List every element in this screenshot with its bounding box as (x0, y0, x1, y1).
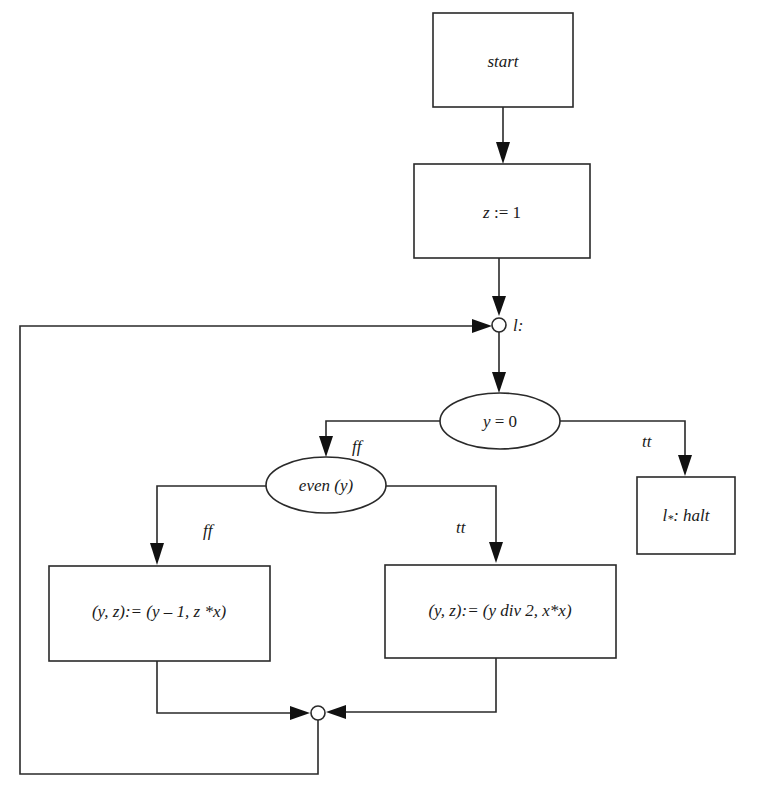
edge-merge-to-loop (20, 319, 492, 774)
node-init-label: z := 1 (482, 203, 521, 222)
node-even-step-label: (y, z):= (y div 2, x*x) (428, 601, 571, 620)
node-start: start (433, 13, 573, 107)
edge-even-false: ff (150, 486, 266, 565)
edge-zero-false: ff (319, 421, 440, 457)
junction-circle-icon (492, 318, 506, 332)
arrow-head-icon (319, 436, 333, 457)
node-init: z := 1 (414, 164, 590, 258)
loop-label: l: (513, 316, 523, 335)
node-start-label: start (487, 52, 519, 71)
arrow-head-icon (472, 319, 492, 333)
flowchart-canvas: start z := 1 l: y = 0 ff (0, 0, 762, 797)
node-odd-step-label: (y, z):= (y – 1, z *x) (92, 602, 227, 621)
edge-label-ff: ff (352, 437, 364, 456)
arrow-head-icon (678, 455, 692, 476)
edge-odd-to-merge (157, 661, 310, 720)
edge-label-tt: tt (642, 432, 653, 451)
node-test-zero: y = 0 (440, 393, 560, 449)
node-test-even: even (y) (266, 457, 386, 513)
node-odd-step: (y, z):= (y – 1, z *x) (49, 566, 270, 661)
arrow-head-icon (492, 372, 506, 393)
node-test-zero-label: y = 0 (481, 412, 517, 431)
node-merge-point (311, 706, 325, 720)
node-test-even-label: even (y) (299, 476, 354, 495)
junction-circle-icon (311, 706, 325, 720)
edge-start-to-init (496, 107, 510, 164)
arrow-head-icon (496, 142, 510, 164)
arrow-head-icon (326, 705, 346, 719)
node-loop-point: l: (492, 316, 523, 335)
arrow-head-icon (150, 543, 164, 565)
edge-zero-true: tt (560, 421, 692, 476)
arrow-head-icon (489, 542, 503, 563)
edge-init-to-loop (492, 258, 506, 316)
node-halt: l*: halt (637, 477, 735, 554)
edge-loop-to-test-zero (492, 332, 506, 393)
edge-even-true: tt (386, 486, 503, 563)
edge-label-tt: tt (456, 518, 467, 537)
edge-even-to-merge (326, 658, 496, 719)
arrow-head-icon (492, 296, 506, 316)
edge-label-ff: ff (203, 521, 215, 540)
arrow-head-icon (290, 706, 310, 720)
node-even-step: (y, z):= (y div 2, x*x) (385, 565, 616, 658)
